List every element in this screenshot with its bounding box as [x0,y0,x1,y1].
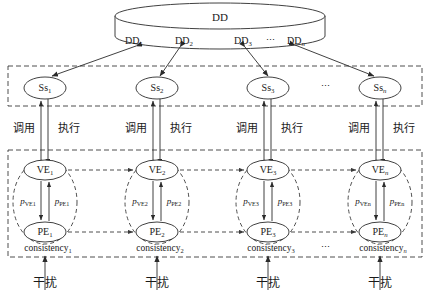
inter-group-links [68,170,356,232]
service-layer-ellipsis: ⋯ [321,82,330,91]
p-ve-label-2: pVE2 [132,197,148,206]
execute-label-n: 执行 [393,123,415,134]
datastore-service-links [52,45,374,76]
execute-label-3: 执行 [281,123,303,134]
consistency-label-n: consistencyn [359,244,407,254]
pe-node-n: PEn [372,227,387,237]
call-label-2: 调用 [125,123,147,134]
p-pe-label-n: pPEn [390,197,405,206]
p-ve-label-n: pVEn [355,197,371,206]
ve-node-2: VE2 [149,165,166,175]
diagram-canvas [0,0,430,303]
datastore-partition-n: DDn [287,36,305,46]
disturbance-label-1: 干扰 [33,277,57,289]
datastore-partition-3: DD3 [234,36,252,46]
consistency-label-3: consistency3 [247,244,295,254]
disturbance-arrows [45,256,380,290]
disturbance-label-2: 干扰 [145,277,169,289]
execute-label-1: 执行 [58,123,80,134]
service-node-n: Ssn [374,83,387,93]
diagram-root: DD DD1 DD2 DD3 ⋯ DDn Ss1 Ss2 Ss3 ⋯ Ssn 调… [0,0,430,303]
call-execute-links [41,99,383,166]
p-ve-label-1: pVE1 [20,197,36,206]
p-pe-label-2: pPE2 [167,197,182,206]
ve-pe-links [41,181,384,221]
pe-node-3: PE3 [260,227,275,237]
p-pe-label-3: pPE3 [278,197,293,206]
datastore-partition-1: DD1 [125,36,143,46]
call-label-3: 调用 [236,123,258,134]
service-node-3: Ss3 [262,83,275,93]
execute-label-2: 执行 [170,123,192,134]
ve-node-1: VE1 [37,165,54,175]
pe-node-1: PE1 [37,227,52,237]
entity-layer-ellipsis: ⋯ [321,243,330,252]
consistency-label-1: consistency1 [24,244,72,254]
ve-node-3: VE3 [260,165,277,175]
datastore-title: DD [212,12,228,23]
p-ve-label-3: pVE3 [243,197,259,206]
entity-node-shapes [24,160,401,242]
ve-node-n: VEn [372,165,389,175]
service-node-2: Ss2 [151,83,164,93]
call-label-n: 调用 [348,123,370,134]
p-pe-label-1: pPE1 [55,197,70,206]
datastore-ellipsis: ⋯ [266,36,275,45]
disturbance-label-3: 干扰 [256,277,280,289]
consistency-group-shapes [13,160,412,244]
service-node-1: Ss1 [39,83,52,93]
datastore-partition-2: DD2 [175,36,193,46]
pe-node-2: PE2 [149,227,164,237]
service-node-shapes [24,77,401,99]
consistency-label-2: consistency2 [136,244,184,254]
call-label-1: 调用 [13,123,35,134]
disturbance-label-n: 干扰 [368,277,392,289]
